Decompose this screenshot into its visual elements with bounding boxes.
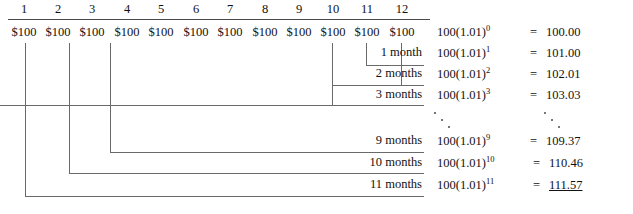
formula-base: 100(1.01) (437, 25, 486, 39)
formula-exponent: 11 (486, 176, 494, 186)
future-value: 110.46 (549, 156, 583, 170)
period-number: 6 (179, 2, 213, 16)
formula-expression: 100(1.01)0 (437, 25, 490, 39)
equals-sign: = (530, 134, 537, 148)
duration-label: 3 months (330, 87, 422, 101)
duration-label: 1 month (330, 45, 422, 59)
formula-exponent: 2 (486, 65, 490, 75)
period-number: 8 (248, 2, 282, 16)
bracket-hline-period-10 (332, 85, 424, 86)
period-number: 2 (41, 2, 75, 16)
equals-sign: = (530, 67, 537, 81)
formula-base: 100(1.01) (437, 88, 486, 102)
equals-sign: = (530, 88, 537, 102)
bracket-vline-period-1 (25, 43, 26, 196)
formula-exponent: 0 (486, 23, 490, 33)
equals-sign: = (530, 46, 537, 60)
equals-sign: = (530, 25, 537, 39)
formula-expression: 100(1.01)10 (437, 156, 494, 170)
formula-expression: 100(1.01)2 (437, 67, 490, 81)
future-value: 100.00 (546, 25, 580, 39)
formula-expression: 100(1.01)9 (437, 134, 490, 148)
timeline-axis-rule (8, 19, 430, 20)
future-value: 102.01 (546, 67, 580, 81)
formula-exponent: 1 (486, 44, 490, 54)
future-value: 109.37 (546, 134, 580, 148)
formula-exponent: 9 (486, 132, 490, 142)
future-value: 103.03 (546, 88, 580, 102)
future-value: 101.00 (546, 46, 580, 60)
formula-base: 100(1.01) (437, 134, 486, 148)
period-number: 10 (316, 2, 350, 16)
future-value-total: 111.57 (549, 178, 582, 192)
duration-label: 2 months (330, 66, 422, 80)
formula-expression: 100(1.01)11 (437, 178, 494, 192)
period-number: 4 (110, 2, 144, 16)
formula-expression: 100(1.01)1 (437, 46, 490, 60)
period-number: 1 (7, 2, 41, 16)
duration-label: 11 months (330, 177, 422, 191)
payment-amount: $100 (347, 25, 387, 39)
formula-base: 100(1.01) (437, 156, 486, 170)
formula-expression: 100(1.01)3 (437, 88, 490, 102)
formula-exponent: 10 (486, 154, 495, 164)
bracket-vline-period-2 (69, 43, 70, 173)
formula-base: 100(1.01) (437, 46, 486, 60)
period-number: 3 (75, 2, 109, 16)
payment-amount: $100 (72, 25, 112, 39)
period-number: 12 (385, 2, 419, 16)
period-number: 9 (282, 2, 316, 16)
formula-base: 100(1.01) (437, 178, 486, 192)
period-number: 7 (213, 2, 247, 16)
compounding-timeline-diagram: 1 2 3 4 5 6 7 8 9 10 11 12 $100 $100 $10… (0, 0, 633, 214)
bracket-hline-period-9 (0, 105, 424, 106)
period-number: 11 (350, 2, 384, 16)
formula-base: 100(1.01) (437, 67, 486, 81)
payment-amount: $100 (382, 25, 422, 39)
payment-amount: $100 (141, 25, 181, 39)
equals-sign: = (533, 178, 540, 192)
equals-sign: = (533, 156, 540, 170)
bracket-hline-period-3 (110, 152, 424, 153)
payment-amount: $100 (210, 25, 250, 39)
duration-label: 10 months (330, 155, 422, 169)
period-number: 5 (144, 2, 178, 16)
formula-exponent: 3 (486, 86, 490, 96)
duration-label: 9 months (330, 133, 422, 147)
bracket-vline-period-3 (110, 43, 111, 152)
bracket-hline-period-2 (69, 173, 424, 174)
bracket-hline-period-1 (25, 196, 424, 197)
